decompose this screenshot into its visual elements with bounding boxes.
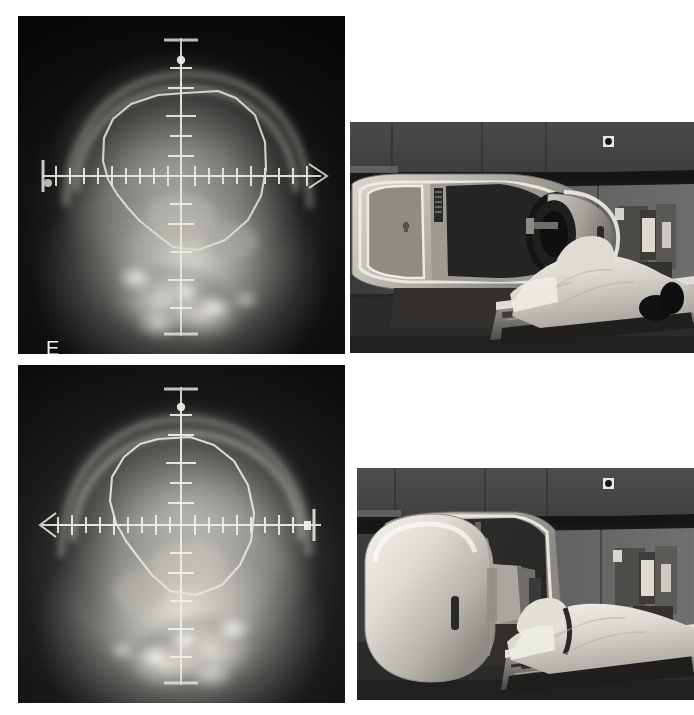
radiograph-image-g <box>18 365 345 703</box>
radiograph-image-e <box>18 16 345 354</box>
panel-e-simulator-radiograph: E <box>18 16 345 354</box>
panel-f-treatment-photograph: F <box>350 122 694 353</box>
film-grain-e <box>18 16 345 354</box>
panel-g-simulator-radiograph: G <box>18 365 345 703</box>
treatment-room-photo-f <box>350 122 694 353</box>
linac-scene-h <box>357 468 694 700</box>
linac-scene-f <box>350 122 694 353</box>
ceiling-laser-h <box>603 478 614 489</box>
figure-sheet: E <box>0 0 694 715</box>
panel-h-treatment-photograph: H <box>357 468 694 700</box>
ceiling-laser-f <box>603 136 614 147</box>
treatment-room-photo-h <box>357 468 694 700</box>
film-grain-g <box>18 365 345 703</box>
